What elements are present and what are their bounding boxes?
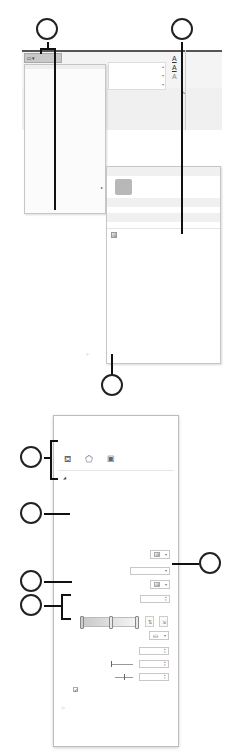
callout-2 <box>36 18 58 40</box>
more-gradients-item[interactable] <box>107 228 220 240</box>
type-dropdown[interactable]: ▾ <box>130 567 170 575</box>
callout-7 <box>20 570 42 592</box>
paint-bucket-icon: ⛀ <box>27 55 31 61</box>
callout-8-leader <box>44 605 62 607</box>
callout-8 <box>20 594 42 616</box>
chevron-down-icon: ▾ <box>32 55 35 61</box>
dark-variations-heading <box>107 213 220 222</box>
ribbon-divider <box>185 50 186 130</box>
preset-gradients-dropdown[interactable]: ▾ <box>150 550 170 559</box>
callout-8-bracket-top <box>61 594 71 596</box>
pane-tabs <box>61 442 77 447</box>
text-effects-icon[interactable]: A <box>172 72 177 81</box>
pane-category-icons: ⛾ ⬠ ▣ <box>62 454 116 464</box>
callout-2-bracket-left <box>40 48 42 54</box>
effects-pentagon-icon[interactable]: ⬠ <box>84 454 94 464</box>
text-fill-icon[interactable]: A <box>172 54 177 63</box>
text-outline-icon[interactable]: A <box>172 63 177 72</box>
callout-5-bracket <box>50 440 52 480</box>
gradient-submenu <box>106 166 221 364</box>
callout-8-bracket <box>61 594 63 620</box>
text-format-icons[interactable]: A A A <box>172 54 177 81</box>
callout-4-leader <box>111 354 113 375</box>
callout-7-leader <box>44 581 72 583</box>
size-properties-icon[interactable]: ▣ <box>106 454 116 464</box>
direction-preview-icon <box>154 582 160 587</box>
theme-colors-shades <box>25 73 105 102</box>
callout-6b-leader <box>172 563 199 565</box>
chevron-down-icon: ▾ <box>165 568 167 574</box>
pane-controls <box>168 426 171 435</box>
divider <box>58 470 174 471</box>
no-gradient-swatch[interactable] <box>115 179 132 195</box>
callout-8-bracket-bottom <box>61 618 71 620</box>
callout-5-bracket-top <box>50 440 58 442</box>
callout-4 <box>101 374 123 396</box>
callout-5-bracket-bottom <box>50 478 58 480</box>
callout-6a <box>20 502 42 524</box>
partial-ribbon-label: ⚐ <box>86 352 90 357</box>
fill-line-icon[interactable]: ⛾ <box>62 454 72 464</box>
callout-3 <box>171 18 193 40</box>
spinner-arrows-icon[interactable]: ▴▾ <box>165 596 167 602</box>
shape-fill-menu <box>24 64 106 214</box>
fill-section-header[interactable]: ◢ <box>63 474 66 480</box>
callout-5 <box>20 446 42 468</box>
direction-dropdown[interactable]: ▾ <box>150 580 170 589</box>
gallery-scroll[interactable]: ▴▾▾ <box>162 62 166 90</box>
collapse-triangle-icon: ◢ <box>63 475 66 480</box>
more-gradients-icon <box>111 232 117 238</box>
gradient-preview-icon <box>154 552 160 557</box>
chevron-down-icon: ▾ <box>165 552 167 557</box>
angle-spinner[interactable]: ▴▾ <box>140 595 170 603</box>
wordart-gallery[interactable] <box>108 62 166 90</box>
standard-colors-row <box>25 106 105 110</box>
callout-6a-leader <box>44 513 70 515</box>
no-gradient-heading <box>107 167 220 176</box>
shape-fill-button[interactable]: ⛀ ▾ <box>24 53 62 63</box>
submenu-arrow-icon: ▸ <box>101 185 103 190</box>
chevron-down-icon: ▾ <box>165 582 167 587</box>
callout-6b <box>199 552 221 574</box>
light-variations-heading <box>107 198 220 207</box>
callout-2-bracket-right <box>54 48 56 210</box>
callout-3-leader <box>181 42 183 234</box>
